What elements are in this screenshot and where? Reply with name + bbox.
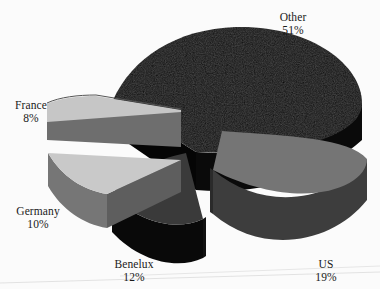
slice-label-france-value: 8% bbox=[0, 112, 62, 125]
slice-label-france-name: France bbox=[0, 99, 62, 112]
slice-label-benelux-name: Benelux bbox=[98, 258, 170, 271]
slice-label-other-value: 51% bbox=[262, 24, 324, 37]
slice-label-germany-value: 10% bbox=[2, 218, 74, 231]
slice-label-benelux-value: 12% bbox=[98, 271, 170, 284]
slice-label-us: US 19% bbox=[300, 258, 352, 284]
pie-slice-us bbox=[210, 131, 367, 240]
slice-label-us-value: 19% bbox=[300, 271, 352, 284]
slice-label-other-name: Other bbox=[262, 11, 324, 24]
slice-label-other: Other 51% bbox=[262, 11, 324, 37]
slice-label-france: France 8% bbox=[0, 99, 62, 125]
pie-chart-graphic bbox=[0, 0, 380, 289]
slice-label-benelux: Benelux 12% bbox=[98, 258, 170, 284]
pie-slice-benelux-side-cut bbox=[203, 217, 206, 258]
pie-slice-us-side-cut bbox=[210, 168, 213, 214]
slice-label-us-name: US bbox=[300, 258, 352, 271]
slice-label-germany-name: Germany bbox=[2, 205, 74, 218]
slice-label-germany: Germany 10% bbox=[2, 205, 74, 231]
pie-chart-figure: Other 51% US 19% Benelux 12% Germany 10%… bbox=[0, 0, 380, 289]
